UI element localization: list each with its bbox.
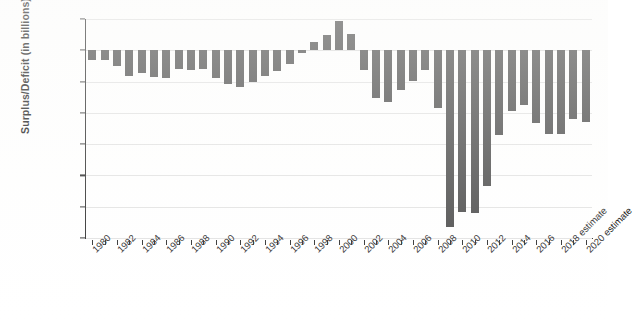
x-axis-tick-mark [302, 240, 303, 245]
x-axis-tick-mark [351, 240, 352, 245]
bar [421, 50, 429, 70]
bar [138, 50, 146, 73]
y-axis-tick-mark [80, 112, 85, 113]
x-axis-tick-mark [179, 240, 180, 245]
bar [434, 50, 442, 107]
bar [372, 50, 380, 97]
y-axis-tick-mark [80, 144, 85, 145]
bar [224, 50, 232, 84]
x-axis-tick-mark [228, 240, 229, 245]
bar [249, 50, 257, 82]
bar [323, 35, 331, 51]
x-axis-tick-mark [425, 240, 426, 245]
gridline [86, 113, 592, 114]
x-axis-tick-mark [154, 240, 155, 245]
bar [557, 50, 565, 133]
bar [101, 50, 109, 60]
bar [150, 50, 158, 77]
x-axis-tick-mark [327, 240, 328, 245]
bar [458, 50, 466, 212]
bar [236, 50, 244, 86]
y-axis-tick-mark [80, 18, 85, 19]
x-axis-tick-mark [499, 240, 500, 245]
x-axis-tick-mark [203, 240, 204, 245]
gridline [86, 207, 592, 208]
plot-area [86, 19, 592, 238]
bar [520, 50, 528, 105]
bar [446, 50, 454, 227]
bar [335, 21, 343, 51]
bar [261, 50, 269, 75]
bar [397, 50, 405, 90]
y-axis-tick-mark [80, 175, 85, 176]
x-axis-tick-mark [475, 240, 476, 245]
x-axis-ticks: 1980198219841986198819901992199419961998… [86, 240, 592, 320]
bar [286, 50, 294, 63]
bar [495, 50, 503, 135]
bar [347, 34, 355, 50]
bar [125, 50, 133, 76]
y-axis-tick-mark [80, 81, 85, 82]
bar [212, 50, 220, 78]
x-axis-tick-mark [450, 240, 451, 245]
y-axis-title: Surplus/Deficit (in billions) [19, 0, 31, 161]
x-axis-tick-mark [376, 240, 377, 245]
bar [88, 50, 96, 59]
bar [532, 50, 540, 123]
bar [545, 50, 553, 133]
x-axis-tick-mark [105, 240, 106, 245]
bar [298, 50, 306, 53]
bar [113, 50, 121, 66]
bar [273, 50, 281, 71]
gridline [86, 144, 592, 145]
bar [483, 50, 491, 186]
y-axis-tick-mark [80, 237, 85, 238]
bar [582, 50, 590, 121]
x-axis-tick-mark [573, 240, 574, 245]
y-axis-tick-mark [80, 50, 85, 51]
gridline [86, 175, 592, 176]
x-axis-tick-mark [277, 240, 278, 245]
bar [187, 50, 195, 69]
bar [471, 50, 479, 213]
y-axis-tick-mark [80, 206, 85, 207]
x-axis-tick-mark [524, 240, 525, 245]
x-axis-tick-mark [253, 240, 254, 245]
bar [569, 50, 577, 119]
x-axis-tick-mark [129, 240, 130, 245]
x-axis-tick-mark [401, 240, 402, 245]
bar [360, 50, 368, 70]
bar [384, 50, 392, 102]
bar [199, 50, 207, 69]
bar [508, 50, 516, 111]
bar [310, 42, 318, 51]
bar [175, 50, 183, 69]
x-axis-tick-mark [549, 240, 550, 245]
bar [409, 50, 417, 81]
bar [162, 50, 170, 78]
gridline [86, 82, 592, 83]
